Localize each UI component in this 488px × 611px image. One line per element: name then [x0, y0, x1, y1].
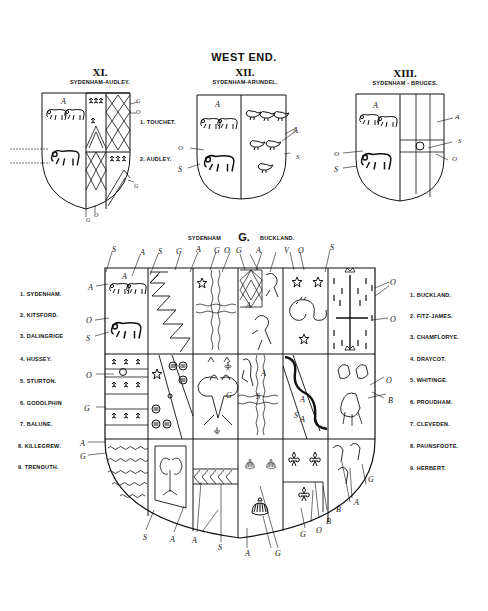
svg-text:A: A — [299, 415, 305, 424]
svg-text:S: S — [86, 334, 90, 343]
heraldry-drawing: A G O G G O A O S A S A A S O O — [0, 0, 488, 611]
svg-text:A: A — [139, 248, 145, 257]
svg-text:S: S — [330, 243, 334, 252]
shield-xi: A G O G G O — [10, 93, 141, 223]
svg-text:A: A — [299, 395, 305, 404]
svg-text:S: S — [178, 165, 182, 174]
svg-text:G: G — [226, 391, 232, 400]
svg-text:O: O — [86, 371, 92, 380]
svg-text:A: A — [372, 101, 378, 110]
svg-text:A: A — [191, 536, 197, 545]
svg-text:A: A — [169, 535, 175, 544]
svg-text:G: G — [275, 549, 281, 558]
svg-text:G: G — [236, 246, 242, 255]
svg-text:G: G — [136, 98, 141, 104]
svg-text:S: S — [296, 153, 300, 161]
svg-text:A: A — [292, 126, 298, 135]
svg-text:A: A — [87, 283, 93, 292]
svg-text:O: O — [178, 144, 183, 152]
svg-text:G: G — [176, 247, 182, 256]
svg-text:A: A — [79, 439, 85, 448]
svg-text:O: O — [224, 246, 230, 255]
svg-text:G: G — [214, 246, 220, 255]
svg-text:O: O — [94, 212, 99, 218]
svg-text:B: B — [388, 396, 393, 405]
svg-text:S: S — [256, 392, 260, 401]
svg-text:S: S — [218, 543, 222, 552]
svg-text:O: O — [298, 246, 304, 255]
svg-text:O: O — [316, 526, 322, 535]
svg-text:A: A — [454, 113, 460, 121]
svg-text:A: A — [260, 369, 266, 378]
shield-xiii: A A S O O S — [334, 94, 462, 201]
svg-text:A: A — [214, 100, 220, 109]
shield-xii: A O S A S — [178, 95, 300, 199]
svg-text:A: A — [60, 97, 66, 106]
svg-text:S: S — [458, 137, 462, 145]
svg-text:G: G — [86, 217, 91, 223]
svg-text:O: O — [386, 376, 392, 385]
svg-text:A: A — [121, 272, 127, 281]
svg-text:G: G — [300, 530, 306, 539]
svg-text:A: A — [245, 301, 251, 310]
svg-text:S: S — [294, 411, 298, 420]
svg-text:S: S — [112, 245, 116, 254]
svg-text:S: S — [334, 165, 338, 174]
svg-text:A: A — [244, 549, 250, 558]
svg-text:S: S — [143, 533, 147, 542]
svg-text:G: G — [80, 452, 86, 461]
svg-text:B: B — [326, 517, 331, 526]
svg-text:B: B — [336, 505, 341, 514]
main-shield — [105, 268, 375, 538]
svg-text:O: O — [390, 278, 396, 287]
svg-text:O: O — [452, 155, 457, 163]
svg-text:A: A — [353, 498, 359, 507]
svg-text:O: O — [136, 109, 141, 115]
svg-text:O: O — [390, 315, 396, 324]
svg-text:O: O — [86, 316, 92, 325]
svg-text:G: G — [368, 475, 374, 484]
svg-text:A: A — [255, 246, 261, 255]
svg-text:V: V — [284, 246, 290, 255]
svg-text:O: O — [334, 150, 339, 158]
svg-text:G: G — [134, 183, 139, 189]
svg-text:A: A — [195, 245, 201, 254]
svg-text:G: G — [84, 404, 90, 413]
svg-text:S: S — [158, 247, 162, 256]
